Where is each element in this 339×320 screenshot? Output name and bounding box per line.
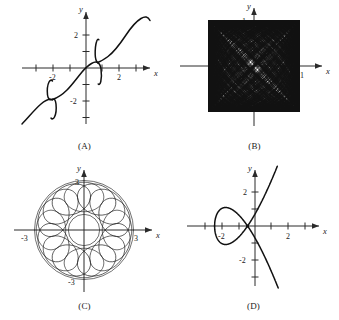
figure-four-curves: -2 2 2 -2 x y (A) xyxy=(0,0,339,320)
panel-c: -3 3 3 -3 x y (C) xyxy=(0,160,169,320)
panel-b-xtick-1: 1 xyxy=(300,71,304,80)
panel-b-xlabel: x xyxy=(325,66,330,76)
panel-d-plot: -2 2 2 -2 x y xyxy=(169,160,338,320)
panel-b-caption: (B) xyxy=(170,141,339,151)
panel-a-caption: (A) xyxy=(0,141,169,151)
panel-d: -2 2 2 -2 x y (D) xyxy=(169,160,338,320)
panel-d-xtick-2: 2 xyxy=(286,232,290,241)
panel-a-plot: -2 2 2 -2 x y xyxy=(0,0,169,160)
panel-c-xlabel: x xyxy=(155,230,160,240)
panel-d-ytick-neg2: -2 xyxy=(239,256,246,265)
panel-d-curve xyxy=(215,166,279,288)
panel-d-ytick-2: 2 xyxy=(243,188,247,197)
panel-d-axes xyxy=(187,170,319,286)
panel-c-plot: -3 3 3 -3 x y xyxy=(0,160,169,320)
panel-c-ytick-3: 3 xyxy=(75,178,79,187)
panel-b: 1 1 x y (B) xyxy=(170,0,339,160)
panel-b-weave xyxy=(209,21,299,111)
panel-a-ytick-2: 2 xyxy=(74,31,78,40)
panel-d-ylabel: y xyxy=(247,163,252,173)
panel-c-ylabel: y xyxy=(76,163,81,173)
panel-c-xtick-3: 3 xyxy=(134,234,138,243)
panel-d-xtick-neg2: -2 xyxy=(218,232,225,241)
panel-a-xtick-2: 2 xyxy=(117,73,121,82)
panel-a-ytick-neg2: -2 xyxy=(70,97,77,106)
panel-d-caption: (D) xyxy=(169,301,338,311)
panel-c-xtick-neg3: -3 xyxy=(21,234,28,243)
panel-c-ytick-neg3: -3 xyxy=(68,278,75,287)
panel-d-xlabel: x xyxy=(322,226,327,236)
panel-c-caption: (C) xyxy=(0,301,169,311)
panel-a-xlabel: x xyxy=(153,68,158,78)
panel-a-ylabel: y xyxy=(78,4,83,14)
panel-b-ylabel: y xyxy=(246,1,251,11)
panel-b-plot: 1 1 x y xyxy=(170,0,339,160)
panel-a: -2 2 2 -2 x y (A) xyxy=(0,0,169,160)
panel-d-node-point xyxy=(246,224,249,227)
